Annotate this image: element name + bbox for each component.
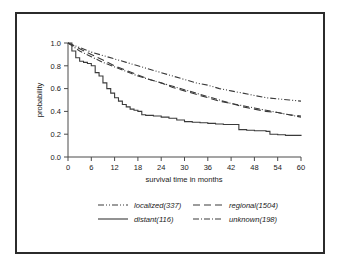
legend: localized(337)regional(1504)distant(116)… bbox=[98, 201, 278, 224]
x-tick-label: 48 bbox=[250, 163, 258, 172]
legend-label: regional(1504) bbox=[229, 201, 278, 210]
x-tick-label: 24 bbox=[157, 163, 165, 172]
figure-root: 0.00.20.40.60.81.0 06121824303642485460 … bbox=[0, 0, 344, 270]
y-axis-title: probability bbox=[35, 82, 44, 117]
x-axis-title: survival time in months bbox=[145, 175, 222, 184]
y-axis-tick-labels: 0.00.20.40.60.81.0 bbox=[51, 39, 61, 162]
legend-label: distant(116) bbox=[134, 215, 174, 224]
survival-chart: 0.00.20.40.60.81.0 06121824303642485460 … bbox=[0, 0, 344, 270]
x-tick-label: 0 bbox=[66, 163, 70, 172]
x-tick-label: 36 bbox=[204, 163, 212, 172]
y-tick-label: 0.4 bbox=[51, 107, 61, 116]
y-tick-label: 0.0 bbox=[51, 153, 61, 162]
x-tick-label: 6 bbox=[89, 163, 93, 172]
y-axis-ticks bbox=[64, 43, 68, 157]
x-tick-label: 54 bbox=[274, 163, 282, 172]
legend-label: unknown(198) bbox=[229, 215, 278, 224]
x-tick-label: 30 bbox=[180, 163, 188, 172]
x-tick-label: 12 bbox=[110, 163, 118, 172]
y-tick-label: 1.0 bbox=[51, 39, 61, 48]
x-tick-label: 60 bbox=[297, 163, 305, 172]
y-tick-label: 0.6 bbox=[51, 84, 61, 93]
x-axis-ticks bbox=[68, 157, 301, 161]
x-tick-label: 42 bbox=[227, 163, 235, 172]
data-curves bbox=[68, 43, 301, 136]
x-tick-label: 18 bbox=[134, 163, 142, 172]
x-axis-tick-labels: 06121824303642485460 bbox=[66, 163, 305, 172]
legend-label: localized(337) bbox=[134, 201, 182, 210]
y-tick-label: 0.2 bbox=[51, 130, 61, 139]
curve-localized bbox=[68, 43, 301, 101]
y-tick-label: 0.8 bbox=[51, 62, 61, 71]
